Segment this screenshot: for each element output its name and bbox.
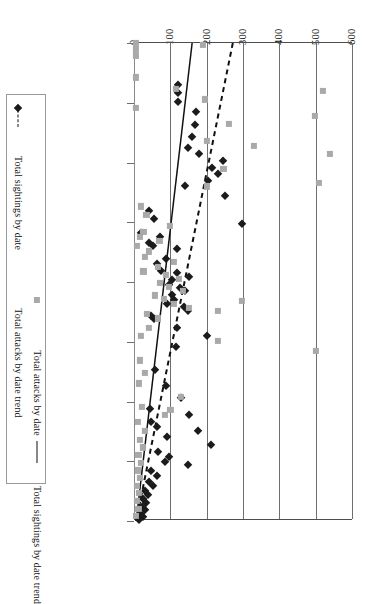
data-point-attack bbox=[166, 284, 172, 290]
data-point-sighting bbox=[193, 427, 202, 436]
data-point-attack bbox=[156, 238, 162, 244]
data-point-attack bbox=[238, 298, 244, 304]
data-point-attack bbox=[185, 305, 191, 311]
data-point-sighting bbox=[220, 192, 229, 201]
data-point-attack bbox=[140, 444, 146, 450]
data-point-attack bbox=[137, 234, 143, 240]
data-point-attack bbox=[138, 203, 144, 209]
y-tick-mark bbox=[127, 163, 134, 164]
legend-label-sightings-trend: Total sightings by date trend bbox=[32, 486, 43, 604]
data-point-attack bbox=[145, 325, 151, 331]
data-point-sighting bbox=[145, 405, 154, 414]
data-point-attack bbox=[320, 88, 326, 94]
data-point-sighting bbox=[184, 410, 193, 419]
legend-item-sightings-trend[interactable]: Total sightings by date trend bbox=[27, 291, 47, 471]
data-point-attack bbox=[142, 370, 148, 376]
data-point-attack bbox=[140, 268, 146, 274]
data-point-attack bbox=[220, 166, 226, 172]
data-point-attack bbox=[135, 452, 141, 458]
data-point-attack bbox=[167, 407, 173, 413]
data-point-attack bbox=[135, 418, 141, 424]
data-point-attack bbox=[163, 272, 169, 278]
dashed-line-icon bbox=[18, 105, 19, 127]
data-point-attack bbox=[133, 74, 139, 80]
data-point-attack bbox=[161, 296, 167, 302]
gridline-200 bbox=[207, 43, 208, 519]
data-point-sighting bbox=[174, 98, 183, 107]
data-point-sighting bbox=[180, 182, 189, 191]
data-point-sighting bbox=[161, 255, 170, 264]
data-point-sighting bbox=[184, 272, 193, 281]
data-point-attack bbox=[177, 394, 183, 400]
data-point-attack bbox=[134, 243, 140, 249]
data-point-sighting bbox=[183, 143, 192, 152]
data-point-attack bbox=[142, 428, 148, 434]
data-point-sighting bbox=[172, 245, 181, 254]
data-point-attack bbox=[133, 52, 139, 58]
data-point-sighting bbox=[151, 365, 160, 374]
gridline-400 bbox=[279, 43, 280, 519]
data-point-attack bbox=[316, 179, 322, 185]
data-point-sighting bbox=[153, 472, 162, 481]
trend-line-attacks bbox=[136, 43, 233, 521]
data-point-attack bbox=[152, 292, 158, 298]
legend-item-attacks-trend[interactable]: Total attacks by date trend bbox=[8, 281, 28, 461]
data-point-attack bbox=[143, 212, 149, 218]
data-point-attack bbox=[137, 332, 143, 338]
y-tick-mark bbox=[127, 103, 134, 104]
data-point-attack bbox=[202, 96, 208, 102]
data-point-sighting bbox=[183, 460, 192, 469]
gridline-300 bbox=[243, 43, 244, 519]
data-point-attack bbox=[180, 288, 186, 294]
chart-legend: Total sightings by date Total attacks by… bbox=[6, 94, 46, 484]
data-point-attack bbox=[136, 490, 142, 496]
data-point-sighting bbox=[153, 448, 162, 457]
data-point-attack bbox=[251, 143, 257, 149]
data-point-attack bbox=[135, 505, 141, 511]
data-point-attack bbox=[133, 105, 139, 111]
data-point-attack bbox=[157, 280, 163, 286]
data-point-attack bbox=[171, 301, 177, 307]
data-point-attack bbox=[312, 113, 318, 119]
legend-column-right: Total attacks by date Total sightings by… bbox=[27, 95, 47, 483]
data-point-attack bbox=[135, 467, 141, 473]
data-point-attack bbox=[137, 357, 143, 363]
data-point-attack bbox=[138, 460, 144, 466]
data-point-sighting bbox=[172, 342, 181, 351]
data-point-sighting bbox=[238, 219, 247, 228]
gridline-0 bbox=[134, 43, 135, 519]
y-tick-mark bbox=[127, 461, 134, 462]
data-point-attack bbox=[173, 86, 179, 92]
data-point-attack bbox=[313, 348, 319, 354]
data-point-attack bbox=[200, 42, 206, 48]
data-point-sighting bbox=[149, 214, 158, 223]
data-point-attack bbox=[171, 259, 177, 265]
data-point-sighting bbox=[219, 156, 228, 165]
data-point-attack bbox=[167, 223, 173, 229]
data-point-attack bbox=[204, 183, 210, 189]
legend-label-sightings: Total sightings by date bbox=[13, 156, 24, 250]
data-point-attack bbox=[137, 437, 143, 443]
plot-area: 11/24/194412/24/19441/23/19452/22/19453/… bbox=[134, 42, 352, 520]
data-point-attack bbox=[214, 338, 220, 344]
data-point-attack bbox=[136, 380, 142, 386]
y-tick-mark bbox=[127, 521, 134, 522]
data-point-attack bbox=[144, 310, 150, 316]
data-point-sighting bbox=[188, 133, 197, 142]
data-point-attack bbox=[133, 513, 139, 519]
data-point-attack bbox=[214, 308, 220, 314]
data-point-attack bbox=[155, 315, 161, 321]
y-tick-mark bbox=[127, 402, 134, 403]
data-point-attack bbox=[139, 404, 145, 410]
data-point-attack bbox=[204, 138, 210, 144]
data-point-attack bbox=[155, 264, 161, 270]
data-point-attack bbox=[142, 254, 148, 260]
legend-label-attacks-trend: Total attacks by date trend bbox=[13, 308, 24, 417]
data-point-attack bbox=[226, 121, 232, 127]
legend-column-left: Total sightings by date Total attacks by… bbox=[8, 95, 28, 483]
data-point-sighting bbox=[202, 331, 211, 340]
solid-line-icon bbox=[37, 441, 38, 463]
data-point-attack bbox=[134, 483, 140, 489]
data-point-sighting bbox=[191, 108, 200, 117]
